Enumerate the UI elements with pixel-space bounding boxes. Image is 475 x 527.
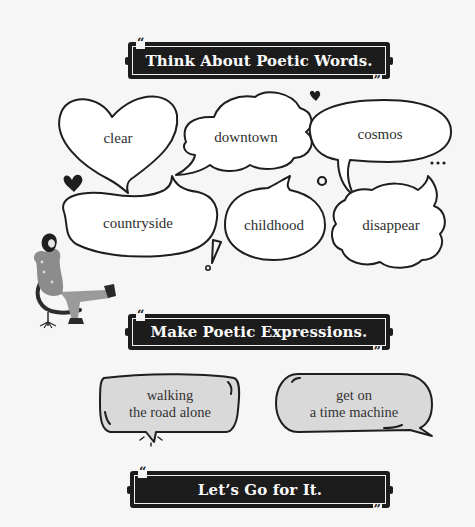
section-banner-lets-go: “ ” Let’s Go for It. <box>130 471 390 508</box>
expression-line-1: walking <box>129 387 211 404</box>
expression-bubbles-art <box>0 0 475 527</box>
banner-knob-left <box>127 486 131 494</box>
expression-line-2: the road alone <box>129 404 211 421</box>
banner-inner-frame: Let’s Go for It. <box>134 475 386 504</box>
banner-knob-right <box>389 486 393 494</box>
expression-time-machine: get on a time machine <box>310 387 399 422</box>
expression-walking: walking the road alone <box>129 387 211 422</box>
expression-line-1: get on <box>310 387 399 404</box>
worksheet-canvas: “ ” Think About Poetic Words. <box>0 0 475 527</box>
expression-line-2: a time machine <box>310 404 399 421</box>
section-title: Let’s Go for It. <box>198 481 322 499</box>
close-quote-icon: ” <box>373 503 382 516</box>
